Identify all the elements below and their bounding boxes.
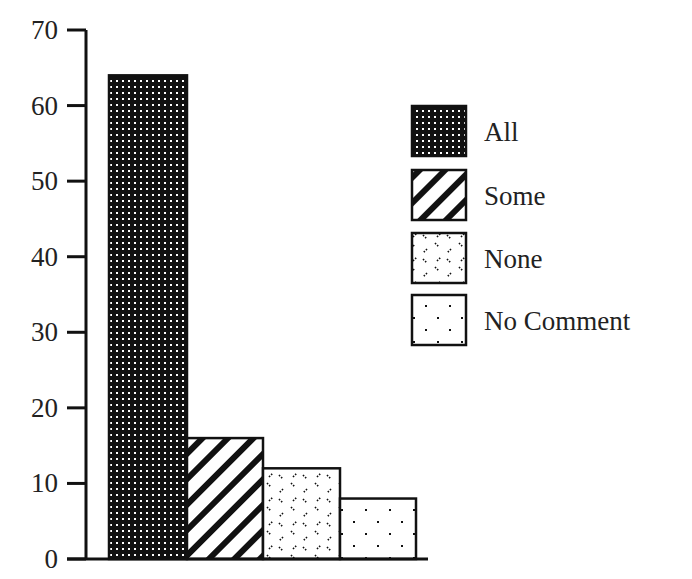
y-tick-label: 20 xyxy=(31,393,58,423)
legend-swatch-none xyxy=(412,233,466,283)
legend-swatch-all xyxy=(412,106,466,156)
bar-chart: 010203040506070 AllSomeNoneNo Comment xyxy=(0,0,692,579)
legend-label: All xyxy=(484,117,519,147)
y-tick-label: 0 xyxy=(45,544,59,574)
legend-swatch-no-comment xyxy=(412,295,466,345)
legend-label: None xyxy=(484,244,542,274)
y-tick-label: 10 xyxy=(31,468,58,498)
y-axis: 010203040506070 xyxy=(31,15,86,574)
y-tick-label: 60 xyxy=(31,91,58,121)
legend-label: No Comment xyxy=(484,306,631,336)
bar-some xyxy=(187,438,263,559)
legend-label: Some xyxy=(484,181,546,211)
y-tick-label: 40 xyxy=(31,242,58,272)
bars xyxy=(67,75,428,559)
bar-all xyxy=(109,75,187,559)
y-tick-label: 50 xyxy=(31,166,58,196)
bar-no-comment xyxy=(340,499,416,559)
y-tick-label: 30 xyxy=(31,317,58,347)
legend: AllSomeNoneNo Comment xyxy=(412,106,631,345)
bar-none xyxy=(263,468,340,559)
y-tick-label: 70 xyxy=(31,15,58,45)
legend-swatch-some xyxy=(412,170,466,220)
